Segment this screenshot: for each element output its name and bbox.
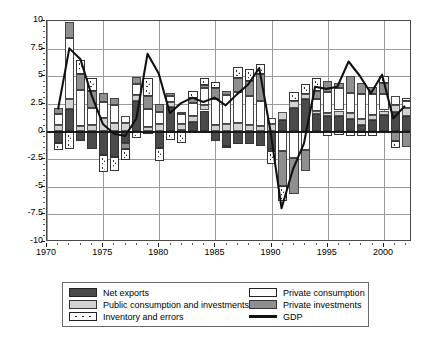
bar-segment-inv — [245, 69, 254, 81]
legend-column-left: Net exportsPublic consumption and invest… — [69, 287, 249, 322]
bar-segment-inv — [379, 76, 388, 83]
bar-segment-net — [132, 101, 141, 132]
bar-segment-inv — [143, 78, 152, 96]
y-axis-minor-tick — [43, 114, 45, 115]
bar-segment-net — [54, 132, 63, 143]
legend-item[interactable]: GDP — [249, 311, 365, 322]
x-axis-minor-tick — [394, 243, 395, 245]
y-axis-minor-tick — [43, 70, 45, 71]
bar-segment-inv — [256, 64, 265, 74]
bar-segment-privi — [301, 150, 310, 171]
bar-segment-privc — [357, 94, 366, 119]
bar-segment-net — [391, 112, 400, 132]
bar-segment-inv — [200, 78, 209, 85]
legend-item[interactable]: Private investments — [249, 299, 365, 310]
bar-segment-inv — [65, 132, 74, 150]
bar-segment-net — [200, 111, 209, 132]
bar-segment-privc — [65, 38, 74, 100]
bar-segment-pubc — [379, 111, 388, 115]
x-axis-tick-label: 1990 — [261, 247, 281, 257]
bar-segment-privc — [188, 103, 197, 116]
zero-axis-line — [47, 131, 410, 133]
x-axis-tick-label: 1970 — [36, 247, 56, 257]
x-axis-minor-tick — [349, 243, 350, 245]
legend-item[interactable]: Private consumption — [249, 287, 365, 298]
x-axis-minor-tick — [360, 243, 361, 245]
legend-item[interactable]: Inventory and errors — [69, 311, 249, 322]
x-axis-minor-tick — [192, 243, 193, 245]
legend-swatch-pubc — [69, 300, 97, 309]
bar-segment-net — [402, 116, 411, 131]
y-axis-tick-label: 2.5 — [3, 98, 43, 107]
bar-segment-privc — [132, 84, 141, 95]
y-axis-minor-tick — [43, 97, 45, 98]
bar-segment-net — [256, 132, 265, 146]
bar-segment-inv — [110, 157, 119, 171]
y-axis-minor-tick — [43, 31, 45, 32]
y-axis-minor-tick — [43, 92, 45, 93]
bar-segment-inv — [391, 141, 400, 148]
y-axis-tick-label: -7.5 — [3, 208, 43, 217]
bar-segment-privi — [87, 91, 96, 109]
bar-segment-net — [233, 132, 242, 144]
bar-segment-net — [301, 99, 310, 131]
y-axis-minor-tick — [43, 64, 45, 65]
bar-segment-net — [245, 132, 254, 144]
bar-segment-privi — [256, 74, 265, 101]
bar-segment-inv — [278, 186, 287, 201]
x-axis-minor-tick — [316, 243, 317, 245]
legend-item[interactable]: Net exports — [69, 287, 249, 298]
bar-segment-pubc — [301, 94, 310, 100]
bar-segment-net — [65, 109, 74, 131]
bar-segment-privi — [143, 96, 152, 109]
bar-segment-privc — [278, 132, 287, 152]
bar-segment-net — [155, 132, 164, 149]
bar-segment-net — [222, 132, 231, 146]
y-axis-minor-tick — [43, 219, 45, 220]
bar-segment-privc — [245, 96, 254, 125]
bar-segment-privi — [233, 78, 242, 91]
bar-segment-pubc — [278, 112, 287, 121]
y-axis-minor-tick — [43, 86, 45, 87]
bar-segment-net — [289, 108, 298, 131]
y-axis-minor-tick — [43, 147, 45, 148]
bar-segment-privi — [357, 83, 366, 94]
bar-segment-privc — [301, 132, 310, 151]
bar-segment-net — [76, 132, 85, 142]
x-axis-minor-tick — [181, 243, 182, 245]
x-axis-minor-tick — [57, 243, 58, 245]
bar-segment-privc — [211, 99, 220, 124]
y-axis-tick-label: 10 — [3, 15, 43, 24]
bar-segment-pubc — [65, 99, 74, 109]
bar-segment-pubc — [368, 115, 377, 121]
y-axis-minor-tick — [43, 81, 45, 82]
bar-segment-pubc — [357, 119, 366, 125]
x-axis-minor-tick — [237, 243, 238, 245]
bar-segment-privi — [155, 104, 164, 112]
bar-segment-inv — [121, 149, 130, 160]
y-axis-minor-tick — [43, 136, 45, 137]
bar-segment-inv — [233, 67, 242, 78]
bar-segment-privc — [334, 88, 343, 110]
x-axis-minor-tick — [338, 243, 339, 245]
bar-segment-net — [267, 132, 276, 150]
bar-segment-inv — [54, 143, 63, 151]
bar-segment-privc — [54, 114, 63, 125]
x-axis-tick-mark — [214, 243, 215, 247]
y-axis-minor-tick — [43, 230, 45, 231]
bar-segment-pubc — [391, 105, 400, 112]
legend-item[interactable]: Public consumption and investments — [69, 299, 249, 310]
bar-segment-privc — [222, 95, 231, 124]
bar-segment-inv — [402, 98, 411, 100]
bar-segment-net — [87, 132, 96, 150]
bar-segment-pubc — [402, 108, 411, 116]
legend-swatch-inv — [69, 312, 97, 321]
x-axis-minor-tick — [68, 243, 69, 245]
y-axis-tick-mark — [41, 103, 45, 104]
x-axis-minor-tick — [203, 243, 204, 245]
bar-segment-pubc — [99, 118, 108, 131]
x-axis-tick-label: 1985 — [204, 247, 224, 257]
y-axis-tick-mark — [41, 75, 45, 76]
bar-segment-pubc — [323, 113, 332, 116]
bar-segment-privc — [289, 132, 298, 159]
